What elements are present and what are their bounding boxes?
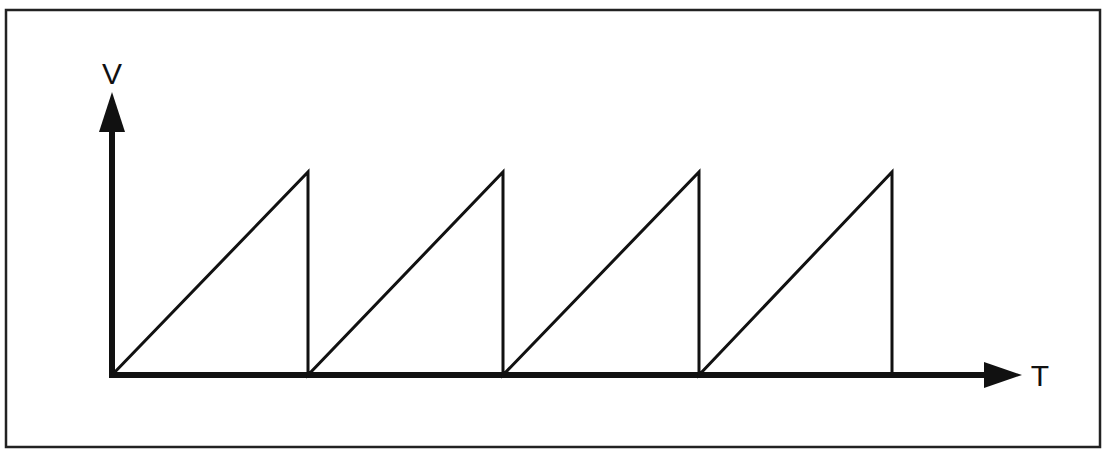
y-axis-label: V (102, 57, 122, 90)
x-axis-label: T (1031, 359, 1049, 392)
diagram-canvas: V T (0, 0, 1106, 456)
sawtooth-diagram: V T (0, 0, 1106, 456)
sawtooth-waveform (112, 172, 892, 375)
y-axis-arrow-icon (99, 92, 125, 132)
frame-border (6, 10, 1100, 447)
x-axis-arrow-icon (984, 362, 1022, 388)
